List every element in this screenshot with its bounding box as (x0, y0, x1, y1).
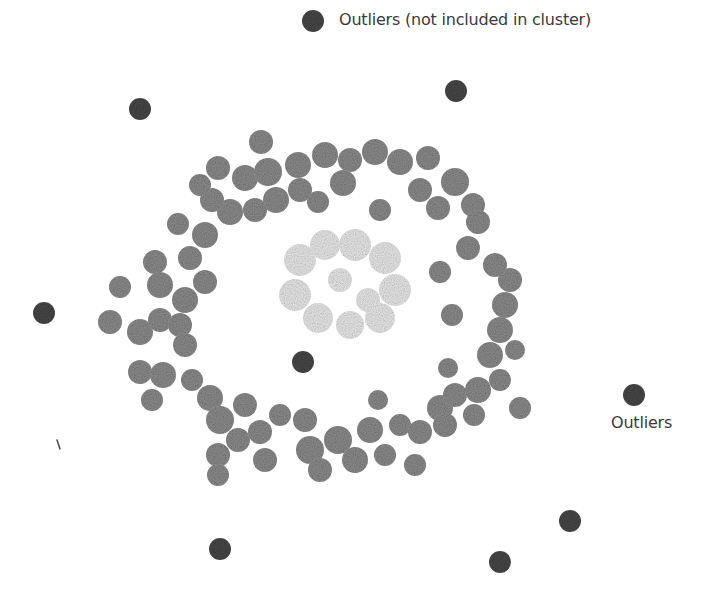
cluster-point (487, 317, 513, 343)
outlier-point (129, 98, 151, 120)
cluster-point (477, 342, 503, 368)
outlier-point (489, 551, 511, 573)
cluster-point (463, 404, 485, 426)
cluster-point (509, 397, 531, 419)
cluster-point (456, 236, 480, 260)
cluster-point (429, 261, 451, 283)
cluster-point (148, 308, 172, 332)
cluster-point (330, 170, 356, 196)
cluster-point (465, 377, 491, 403)
cluster-point (387, 149, 413, 175)
cluster-point (206, 443, 230, 467)
cluster-point (109, 276, 131, 298)
cluster-point (128, 360, 152, 384)
cluster-point (269, 404, 291, 426)
cluster-point (374, 444, 396, 466)
stray-mark (57, 440, 60, 449)
cluster-point (342, 447, 368, 473)
outlier-point (209, 538, 231, 560)
cluster-point (147, 272, 173, 298)
cluster-point (433, 413, 457, 437)
cluster-point (226, 428, 250, 452)
outlier-point (302, 10, 324, 32)
cluster-point (489, 369, 511, 391)
cluster-point (404, 454, 426, 476)
cluster-point (438, 358, 458, 378)
cluster-point (178, 246, 202, 270)
cluster-point (206, 156, 230, 180)
cluster-point (505, 340, 525, 360)
cluster-point (416, 146, 440, 170)
inner-cluster-point (303, 303, 333, 333)
cluster-point (308, 458, 332, 482)
cluster-point (441, 304, 463, 326)
cluster-point (192, 222, 218, 248)
cluster-point (167, 213, 189, 235)
inner-cluster-point (310, 230, 340, 260)
cluster-point (492, 292, 518, 318)
cluster-point (189, 174, 211, 196)
outliers-not-included-label: Outliers (not included in cluster) (339, 10, 591, 29)
inner-cluster-point (339, 229, 371, 261)
cluster-point (466, 210, 490, 234)
outlier-point (33, 302, 55, 324)
outliers-label: Outliers (611, 413, 672, 432)
cluster-point (193, 270, 217, 294)
outlier-point (623, 384, 645, 406)
cluster-point (207, 464, 229, 486)
cluster-point (98, 310, 122, 334)
outlier-point (559, 510, 581, 532)
cluster-point (233, 393, 257, 417)
outlier-point (445, 80, 467, 102)
cluster-point (206, 406, 234, 434)
cluster-point (426, 196, 450, 220)
cluster-point (285, 152, 311, 178)
cluster-point (357, 417, 383, 443)
cluster-point (441, 168, 469, 196)
cluster-point (312, 142, 338, 168)
cluster-point (369, 199, 391, 221)
cluster-point (254, 158, 282, 186)
cluster-point (232, 165, 258, 191)
cluster-point (172, 287, 198, 313)
cluster-point (443, 383, 467, 407)
inner-cluster-point (379, 274, 411, 306)
cluster-point (181, 369, 203, 391)
cluster-point (389, 414, 411, 436)
cluster-point (249, 130, 273, 154)
cluster-point (141, 389, 163, 411)
cluster-point (293, 408, 317, 432)
cluster-point (408, 420, 432, 444)
cluster-point (362, 139, 388, 165)
cluster-point (248, 420, 272, 444)
cluster-point (143, 250, 167, 274)
cluster-point (288, 178, 312, 202)
cluster-point (408, 178, 432, 202)
cluster-point (243, 198, 267, 222)
cluster-point (168, 313, 192, 337)
inner-cluster-point (279, 279, 311, 311)
inner-cluster-point (336, 311, 364, 339)
cluster-point (173, 333, 197, 357)
cluster-point (150, 362, 176, 388)
cluster-point (483, 253, 507, 277)
inner-cluster (279, 229, 411, 339)
cluster-diagram (0, 0, 714, 600)
cluster-point (338, 148, 362, 172)
cluster-point (253, 448, 277, 472)
inner-cluster-point (369, 242, 401, 274)
inner-cluster-point (356, 288, 380, 312)
cluster-point (368, 390, 388, 410)
outlier-point (292, 351, 314, 373)
inner-cluster-point (328, 268, 352, 292)
